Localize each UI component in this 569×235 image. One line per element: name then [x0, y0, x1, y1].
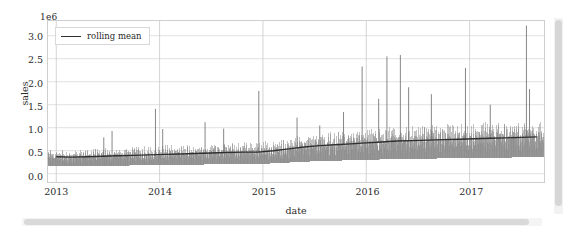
legend-line-icon: [61, 36, 81, 37]
plot-canvas: [48, 21, 544, 182]
y-axis-label: sales: [19, 64, 30, 124]
y-tick-label: 1.5: [28, 100, 43, 111]
vertical-scrollbar[interactable]: [554, 18, 563, 214]
plot-area: 0.00.51.01.52.02.53.0 201320142015201620…: [47, 20, 545, 183]
vertical-scrollbar-thumb[interactable]: [555, 20, 562, 206]
y-tick-label: 0.5: [28, 147, 43, 158]
y-tick-label: 1.0: [28, 124, 43, 135]
x-tick-label: 2015: [252, 186, 276, 197]
sales-time-series-figure: 1e6 sales 0.00.51.01.52.02.53.0 20132014…: [0, 0, 558, 214]
chart-legend: rolling mean: [55, 27, 150, 45]
legend-label-rolling-mean: rolling mean: [87, 31, 142, 41]
y-tick-label: 2.5: [28, 54, 43, 65]
x-tick-label: 2017: [459, 186, 483, 197]
y-tick-label: 3.0: [28, 30, 43, 41]
figure-container: 1e6 sales 0.00.51.01.52.02.53.0 20132014…: [0, 0, 569, 235]
x-tick-label: 2013: [44, 186, 68, 197]
y-tick-label: 2.0: [28, 77, 43, 88]
x-tick-label: 2016: [355, 186, 379, 197]
x-tick-label: 2014: [148, 186, 172, 197]
y-tick-label: 0.0: [28, 170, 43, 181]
x-axis-label: date: [47, 205, 545, 216]
horizontal-scrollbar[interactable]: [22, 218, 542, 226]
horizontal-scrollbar-thumb[interactable]: [24, 219, 529, 225]
